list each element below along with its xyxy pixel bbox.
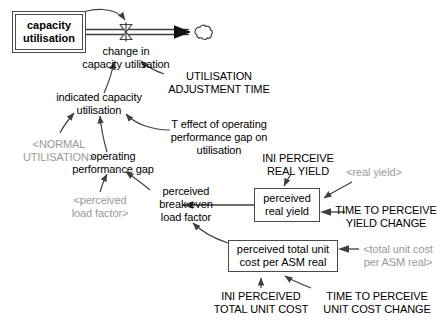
cloud-sink-icon (195, 25, 212, 39)
box-perceived-total-unit-cost-per-asm-real[interactable]: perceived total unit cost per ASM real (228, 240, 338, 272)
link-perceived-load-factor-to-opgap (100, 174, 107, 192)
system-dynamics-diagram: capacity utilisation perceived real yiel… (0, 0, 447, 330)
valve-icon (120, 23, 132, 42)
label-perceived-break-even-load-factor[interactable]: perceived break even load factor (148, 185, 224, 224)
link-real-yield-to-pry (324, 182, 352, 198)
label-change-in-capacity-utilisation[interactable]: change in capacity utilisation (76, 45, 176, 71)
label-shadow-total-unit-cost-per-asm-real[interactable]: <total unit cost per ASM real> (352, 243, 444, 269)
label-operating-performance-gap[interactable]: operating performance gap (66, 150, 160, 176)
flow-pipe (70, 30, 189, 35)
link-ptuc-to-pbelf (193, 223, 228, 243)
box-perceived-real-yield[interactable]: perceived real yield (254, 188, 320, 222)
link-ttpucc-to-ptuc (285, 276, 311, 288)
stock-capacity-utilisation[interactable]: capacity utilisation (15, 14, 83, 50)
label-time-to-perceive-unit-cost-change[interactable]: TIME TO PERCEIVE UNIT COST CHANGE (312, 290, 442, 316)
flow-arrowhead-to-cloud (174, 25, 191, 39)
label-ini-perceive-real-yield[interactable]: INI PERCEIVE REAL YIELD (256, 152, 340, 178)
label-ini-perceived-total-unit-cost[interactable]: INI PERCEIVED TOTAL UNIT COST (203, 290, 319, 316)
label-shadow-perceived-load-factor[interactable]: <perceived load factor> (58, 194, 142, 220)
label-shadow-real-yield[interactable]: <real yield> (343, 166, 405, 179)
label-indicated-capacity-utilisation[interactable]: indicated capacity utilisation (46, 91, 152, 117)
label-time-to-perceive-yield-change[interactable]: TIME TO PERCEIVE YIELD CHANGE (330, 204, 442, 230)
label-utilisation-adjustment-time[interactable]: UTILISATION ADJUSTMENT TIME (164, 70, 274, 96)
